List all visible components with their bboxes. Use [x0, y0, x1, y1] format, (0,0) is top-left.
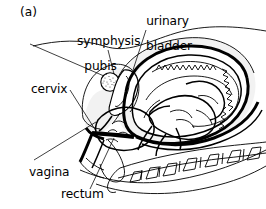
fetal-limb-4 — [196, 110, 212, 124]
label-symphysis-pubis-line2: pubis — [84, 59, 116, 73]
fetal-trunk — [149, 96, 215, 140]
placenta-body — [152, 62, 239, 127]
label-urinary-bladder-line1: urinary — [146, 14, 189, 28]
panel-letter: (a) — [20, 5, 37, 19]
label-cervix: cervix — [31, 83, 67, 96]
label-symphysis-pubis: symphysis pubis — [62, 22, 124, 85]
label-urinary-bladder-line2: bladder — [146, 39, 192, 53]
label-vagina: vagina — [29, 166, 69, 179]
spinous-processes — [130, 147, 261, 182]
anatomical-figure: (a) symphysis pubis urinary bladder cerv… — [0, 0, 266, 209]
leader-vagina — [34, 122, 96, 160]
vagina-anterior-wall — [80, 134, 92, 162]
perineum-group — [80, 134, 125, 182]
label-urinary-bladder: urinary bladder — [131, 2, 189, 65]
label-rectum: rectum — [61, 188, 104, 201]
lower-body-contour — [80, 150, 266, 183]
vertebral-band-bottom — [118, 153, 266, 178]
